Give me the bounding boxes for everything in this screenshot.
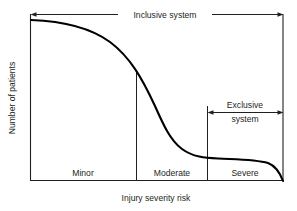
injury-severity-curve-chart: Inclusive system Exclusive system Minor … xyxy=(0,0,297,211)
x-axis-title: Injury severity risk xyxy=(122,193,191,203)
chart-figure: Inclusive system Exclusive system Minor … xyxy=(0,0,297,211)
inclusive-system-label: Inclusive system xyxy=(133,10,196,20)
category-label-moderate: Moderate xyxy=(154,168,191,178)
exclusive-system-label-line2: system xyxy=(231,114,258,124)
exclusive-system-label-line1: Exclusive xyxy=(227,100,264,110)
y-axis-title: Number of patients xyxy=(7,62,17,135)
category-label-minor: Minor xyxy=(72,168,94,178)
category-label-severe: Severe xyxy=(231,168,258,178)
